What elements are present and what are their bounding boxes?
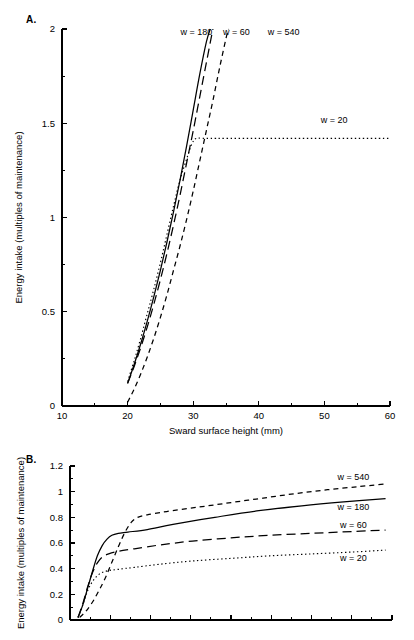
figure-root: A. 00.511.52102030405060Sward surface he… <box>0 0 414 640</box>
series-label-w-20: w = 20 <box>339 553 367 563</box>
series-label-w-180: w = 180 <box>180 27 213 37</box>
y-axis-title: Energy intake (multiples of maintenance) <box>15 457 26 629</box>
y-tick-label: 0.6 <box>50 537 63 548</box>
curve-w-20 <box>128 138 390 382</box>
x-tick-label: 10 <box>57 410 68 421</box>
y-tick-label: 0 <box>50 400 55 411</box>
curves-group <box>128 29 390 402</box>
curve-w-180 <box>128 29 211 383</box>
curve-w-60 <box>78 530 386 617</box>
panel-a: A. 00.511.52102030405060Sward surface he… <box>0 0 414 448</box>
y-tick-label: 0.4 <box>50 563 63 574</box>
x-tick-label: 40 <box>254 410 265 421</box>
panel-b-plot: 00.20.40.60.811.2Energy intake (multiple… <box>0 448 414 640</box>
x-tick-label: 60 <box>385 410 396 421</box>
x-axis-title: Sward surface height (mm) <box>169 425 283 436</box>
curve-w-540 <box>128 29 229 402</box>
y-tick-label: 0.2 <box>50 589 63 600</box>
y-tick-label: 0.5 <box>42 306 55 317</box>
series-label-w-60: w = 60 <box>339 520 367 530</box>
panel-b: B. 00.20.40.60.811.2Energy intake (multi… <box>0 448 414 640</box>
series-label-w-60: w = 60 <box>222 27 250 37</box>
series-label-w-180: w = 180 <box>336 502 369 512</box>
y-tick-label: 1.5 <box>42 118 55 129</box>
x-tick-label: 50 <box>319 410 330 421</box>
y-axis-title: Energy intake (multiples of maintenance) <box>13 131 24 303</box>
series-label-w-540: w = 540 <box>336 472 369 482</box>
series-label-w-540: w = 540 <box>267 27 300 37</box>
y-tick-label: 2 <box>50 23 55 34</box>
y-tick-label: 1.2 <box>50 460 63 471</box>
x-tick-label: 30 <box>188 410 199 421</box>
y-tick-label: 0.8 <box>50 512 63 523</box>
panel-a-plot: 00.511.52102030405060Sward surface heigh… <box>0 0 414 448</box>
curve-w-60 <box>128 29 213 383</box>
series-label-w-20: w = 20 <box>320 115 348 125</box>
y-tick-label: 1 <box>50 212 55 223</box>
x-tick-label: 20 <box>122 410 133 421</box>
y-tick-label: 1 <box>58 486 63 497</box>
y-tick-label: 0 <box>58 614 63 625</box>
